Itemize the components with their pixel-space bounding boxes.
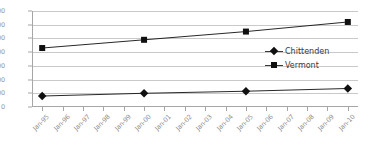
diamond-data-point [242,87,250,95]
legend-item-vermont: Vermont [265,58,365,72]
chart-legend: Chittenden Vermont [265,44,365,72]
square-data-point [39,45,45,51]
square-marker-icon [265,60,283,70]
legend-label: Chittenden [283,47,329,56]
line-chart: 70006000500040003000200010000 Jan-95Jan-… [0,0,368,160]
square-data-point [141,37,147,43]
legend-label: Vermont [283,61,319,70]
series-layer [0,0,368,160]
square-data-point [345,19,351,25]
series-line-chittenden [42,88,348,96]
diamond-marker-icon [265,46,283,56]
legend-item-chittenden: Chittenden [265,44,365,58]
diamond-data-point [38,92,46,100]
diamond-data-point [140,89,148,97]
square-data-point [243,29,249,35]
diamond-data-point [344,84,352,92]
